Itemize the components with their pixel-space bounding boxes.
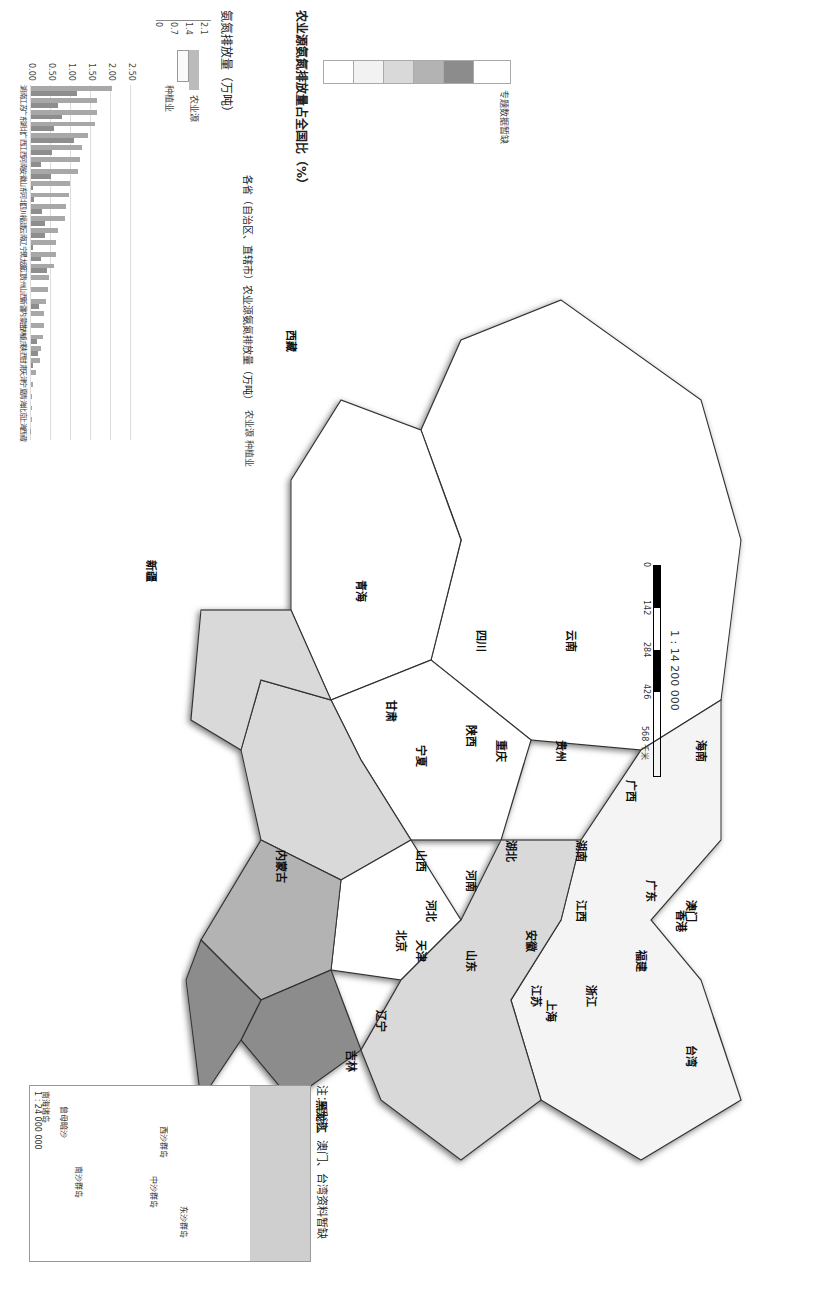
bar-agri [31, 323, 44, 328]
province-label: 上海 [544, 1000, 560, 1022]
bar-crop [31, 339, 37, 344]
bar-crop [31, 209, 42, 214]
bar-crop [31, 363, 33, 368]
bar-crop [31, 103, 58, 108]
bar-crop [31, 268, 47, 273]
inset-label: 东沙群岛 [179, 1206, 190, 1238]
bar-agri [31, 287, 48, 292]
category-label: 西藏 [19, 428, 29, 442]
province-label: 福建 [634, 950, 650, 972]
province-label: 广西 [624, 780, 640, 802]
rotated-map-page: 氨氮排放量（万吨） 0 0.7 1.4 2.1 农业源 种植业 农业源氨氮排放量… [0, 0, 831, 1316]
bar-crop [31, 162, 41, 167]
province-label: 江苏 [529, 985, 545, 1007]
bar-agri [31, 394, 32, 399]
scale-tick: 0 [642, 562, 651, 567]
bar-crop [31, 138, 74, 143]
scale-tick: 284 [642, 642, 651, 657]
bar-crop [31, 126, 54, 131]
y-tick-label: 0.00 [27, 63, 36, 81]
province-label: 海南 [694, 740, 710, 762]
scale-bar [653, 565, 661, 777]
bar-agri [31, 193, 69, 198]
province-label: 重庆 [494, 740, 510, 762]
legend-label: 专题数据暂缺 [498, 90, 511, 144]
inset-scale: 1 : 24 000 000 [33, 1091, 42, 1150]
province-label: 新疆 [144, 560, 160, 582]
bar-crop [31, 174, 51, 179]
province-label: 河北 [424, 900, 440, 922]
province-label: 吉林 [344, 1050, 360, 1072]
bar-agri [31, 275, 49, 280]
mini-legend-chart: 0 0.7 1.4 2.1 农业源 种植业 [151, 20, 211, 130]
province-label: 台湾 [684, 1045, 700, 1067]
province-label: 青海 [354, 580, 370, 602]
y-tick-label: 2.00 [107, 63, 116, 81]
province-label: 山东 [464, 950, 480, 972]
province-label: 安徽 [524, 930, 540, 952]
inset-label: 中沙群岛 [149, 1176, 160, 1208]
province-label: 浙江 [584, 985, 600, 1007]
scale-text: 1 : 14 200 000 [668, 630, 681, 711]
south-china-sea-inset: 南海诸岛 1 : 24 000 000 西沙群岛 中沙群岛 东沙群岛 南沙群岛 … [29, 1085, 311, 1262]
bar-crop [31, 150, 52, 155]
province-label: 湖北 [504, 840, 520, 862]
mini-chart-title: 氨氮排放量（万吨） [219, 10, 236, 118]
region-xinjiang [421, 300, 741, 750]
bar-agri [31, 382, 33, 387]
bar-agri [31, 406, 32, 411]
bar-crop [31, 91, 77, 96]
inset-label: 西沙群岛 [159, 1126, 170, 1158]
mini-tick: 0 [154, 22, 163, 27]
province-label: 西藏 [284, 330, 300, 352]
bar-chart: 0.000.501.001.502.002.50湖南江苏广东湖北广西江西河南安徽… [21, 85, 131, 440]
mini-tick: 1.4 [184, 22, 193, 35]
province-label: 北京 [394, 930, 410, 952]
province-label: 天津 [414, 940, 430, 962]
province-label: 广东 [644, 880, 660, 902]
gridline [130, 85, 131, 440]
province-label: 山西 [414, 850, 430, 872]
bar-crop [31, 221, 45, 226]
map-note: 注：香港、澳门、台湾资料暂缺 [315, 1085, 331, 1239]
province-label: 内蒙古 [274, 850, 290, 883]
province-label: 河南 [464, 870, 480, 892]
y-tick-label: 1.50 [87, 63, 96, 81]
bar-crop [31, 257, 41, 262]
province-label: 宁夏 [414, 745, 430, 767]
gridline [110, 85, 111, 440]
legend-swatch-no-data [473, 60, 511, 84]
mini-bar-crop [177, 50, 189, 82]
province-label: 云南 [564, 630, 580, 652]
bar-crop [31, 186, 33, 191]
y-tick-label: 0.50 [47, 63, 56, 81]
bar-crop [31, 245, 33, 250]
bar-crop [31, 197, 34, 202]
bar-crop [31, 351, 38, 356]
bar-crop [31, 233, 45, 238]
scale-tick: 426 [642, 684, 651, 699]
mini-bar-agri [189, 50, 199, 90]
mini-tick: 2.1 [199, 22, 208, 35]
inset-label: 曾母暗沙 [59, 1106, 70, 1138]
gridline [90, 85, 91, 440]
province-label: 湖南 [574, 840, 590, 862]
bar-crop [31, 115, 62, 120]
inset-label: 南沙群岛 [74, 1166, 85, 1198]
y-tick-label: 1.00 [67, 63, 76, 81]
province-label: 陕西 [464, 725, 480, 747]
mini-tick: 0.7 [169, 22, 178, 35]
legend-title: 农业源氨氮排放量占全国比（%） [294, 10, 311, 190]
mini-series-label: 种植业 [163, 85, 176, 112]
province-label: 甘肃 [384, 700, 400, 722]
mini-series-label: 农业源 [188, 95, 201, 122]
bar-crop [31, 304, 39, 309]
bar-agri [31, 181, 70, 186]
province-label: 四川 [474, 630, 490, 652]
scale-tick: 568 千米 [640, 726, 651, 760]
inset-title: 南海诸岛 [41, 1091, 52, 1123]
province-label: 辽宁 [374, 1010, 390, 1032]
bar-agri [31, 311, 44, 316]
y-tick-label: 2.50 [127, 63, 136, 81]
province-label: 香港 [674, 910, 690, 932]
